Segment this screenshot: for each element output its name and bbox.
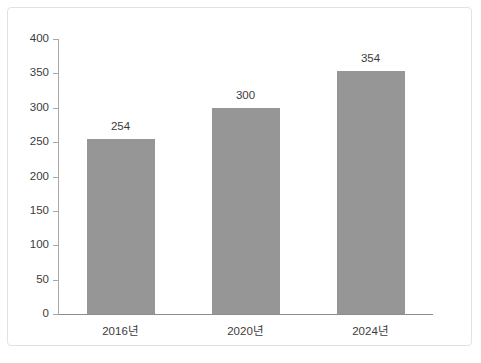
bar [212,108,280,314]
y-axis-tick [53,245,59,246]
y-axis-label: 300 [0,102,49,114]
bar [87,139,155,314]
chart-frame: 050100150200250300350400 254300354 2016년… [7,7,472,346]
x-axis-category-label: 2020년 [227,326,264,338]
bar-value-label: 254 [111,121,130,133]
y-axis-label: 50 [0,274,49,286]
y-axis-label: 350 [0,68,49,80]
y-axis-label: 400 [0,33,49,45]
bar-value-label: 300 [236,90,255,102]
y-axis-tick [53,108,59,109]
y-axis-tick [53,177,59,178]
x-axis-category-label: 2024년 [352,326,389,338]
y-axis-tick [53,211,59,212]
bar [337,71,405,314]
y-axis-tick [53,142,59,143]
bar-chart-plot-area: 050100150200250300350400 254300354 2016년… [8,8,473,347]
y-axis-label: 0 [0,308,49,320]
x-axis-line [58,314,433,315]
y-axis-tick [53,280,59,281]
bar-value-label: 354 [361,53,380,65]
y-axis-label: 200 [0,171,49,183]
y-axis-label: 150 [0,205,49,217]
y-axis-tick [53,39,59,40]
y-axis-label: 100 [0,240,49,252]
y-axis-tick [53,73,59,74]
y-axis-label: 250 [0,136,49,148]
y-axis-tick [53,314,59,315]
x-axis-category-label: 2016년 [102,326,139,338]
